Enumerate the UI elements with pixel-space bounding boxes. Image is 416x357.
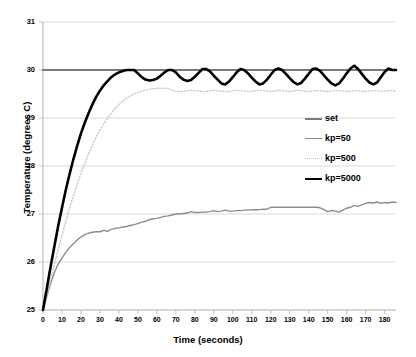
legend-item-kp50[interactable]: kp=50 <box>305 128 405 148</box>
y-tick-label: 31 <box>9 17 35 26</box>
legend-swatch-kp50-icon <box>305 133 322 143</box>
series-line-kp-50 <box>43 202 396 310</box>
x-tick-label: 180 <box>374 316 396 323</box>
legend-label-set: set <box>325 113 338 123</box>
x-axis-title: Time (seconds) <box>0 334 416 345</box>
chart-container: 25262728293031 0102030405060708090100110… <box>0 0 416 357</box>
y-tick-label: 30 <box>9 65 35 74</box>
legend-swatch-kp500-icon <box>305 153 322 163</box>
legend-item-kp5000[interactable]: kp=5000 <box>305 168 405 188</box>
legend-label-kp5000: kp=5000 <box>325 173 361 183</box>
legend-swatch-kp5000-icon <box>305 173 322 183</box>
y-axis-title: Temperature (degrees C) <box>21 78 32 238</box>
legend-swatch-set-icon <box>305 113 322 123</box>
y-tick-label: 25 <box>9 305 35 314</box>
legend-label-kp500: kp=500 <box>325 153 356 163</box>
y-tick-label: 26 <box>9 257 35 266</box>
chart-legend: set kp=50 kp=500 kp=5000 <box>305 108 405 188</box>
legend-item-set[interactable]: set <box>305 108 405 128</box>
legend-item-kp500[interactable]: kp=500 <box>305 148 405 168</box>
legend-label-kp50: kp=50 <box>325 133 351 143</box>
